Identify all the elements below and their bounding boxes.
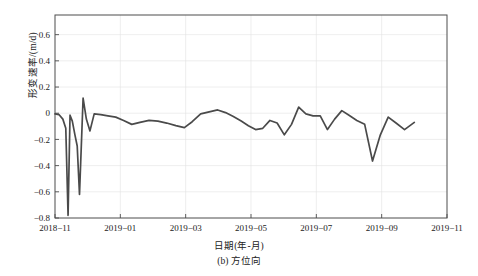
x-tick-label: 2019−03 [170, 223, 203, 233]
x-tick-label: 2019−07 [300, 223, 333, 233]
y-tick-label: 0.6 [39, 30, 51, 40]
y-tick-label: 0.4 [39, 56, 51, 66]
y-tick-label: −0.6 [34, 187, 51, 197]
x-axis-label: 日期(年-月) [0, 238, 478, 252]
y-tick-label: −0.8 [34, 213, 51, 223]
y-tick-label: 0.2 [39, 82, 50, 92]
x-tick-label: 2019−01 [104, 223, 136, 233]
y-tick-label: −0.2 [34, 135, 50, 145]
chart-figure: 形变速率/(m/d) 0.60.40.20−0.2−0.4−0.6−0.8201… [0, 0, 478, 276]
y-tick-label: 0 [46, 108, 51, 118]
line-chart-plot: 0.60.40.20−0.2−0.4−0.6−0.82018−112019−01… [0, 0, 478, 276]
figure-caption: (b) 方位向 [0, 253, 478, 267]
x-tick-label: 2019−05 [235, 223, 268, 233]
x-tick-label: 2019−09 [366, 223, 399, 233]
x-tick-label: 2018−11 [39, 223, 71, 233]
y-tick-label: −0.4 [34, 161, 51, 171]
data-series-line [55, 98, 414, 215]
x-tick-label: 2019−11 [431, 223, 463, 233]
